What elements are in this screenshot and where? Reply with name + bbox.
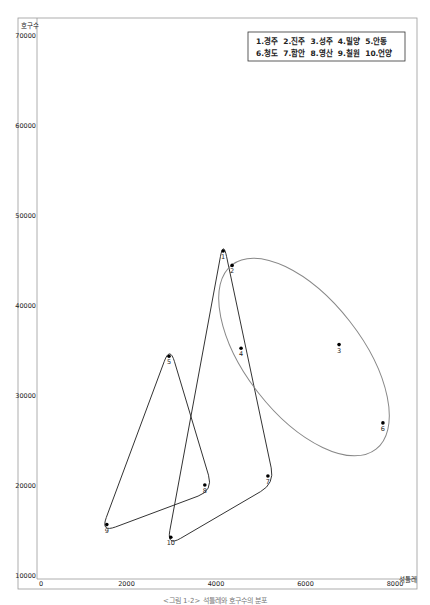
y-tick-label: 10000 bbox=[15, 572, 36, 580]
data-point-label: 1 bbox=[221, 253, 225, 261]
group-triangle-small bbox=[105, 354, 210, 529]
figure-caption: <그림 1-2> 석틀레와 호구수의 분포 bbox=[0, 595, 430, 605]
data-point-label: 5 bbox=[167, 358, 171, 366]
x-tick-label: 2000 bbox=[118, 580, 135, 588]
data-point-label: 2 bbox=[230, 267, 234, 275]
group-outlines bbox=[105, 229, 422, 541]
y-tick-label: 50000 bbox=[15, 212, 36, 220]
legend-row-2: 6.청도 7.함안 8.영산 9.칠원 10.언양 bbox=[256, 48, 392, 58]
x-tick-label: 6000 bbox=[297, 580, 314, 588]
data-point-label: 10 bbox=[167, 539, 175, 547]
data-point-label: 7 bbox=[266, 478, 270, 486]
data-point-label: 8 bbox=[203, 487, 207, 495]
x-axis-ticks: 02000400060008000 bbox=[39, 580, 403, 588]
legend: 1.경주 2.진주 3.성주 4.밀양 5.안동 6.청도 7.함안 8.영산 … bbox=[248, 32, 405, 61]
y-tick-label: 30000 bbox=[15, 392, 36, 400]
x-axis-title: 석틀레 bbox=[399, 575, 417, 584]
data-point-label: 4 bbox=[239, 350, 243, 358]
y-tick-label: 20000 bbox=[15, 482, 36, 490]
chart-frame bbox=[18, 18, 417, 589]
data-points: 12345678910 bbox=[105, 249, 385, 547]
y-tick-label: 70000 bbox=[15, 32, 36, 40]
y-axis-title: 호구수 bbox=[21, 22, 39, 30]
x-tick-label: 4000 bbox=[208, 580, 225, 588]
data-point-label: 3 bbox=[337, 347, 341, 355]
group-ellipse bbox=[186, 229, 421, 485]
legend-row-1: 1.경주 2.진주 3.성주 4.밀양 5.안동 bbox=[256, 36, 387, 46]
y-tick-label: 60000 bbox=[15, 122, 36, 130]
y-axis-ticks: 10000200003000040000500006000070000 bbox=[15, 32, 36, 580]
x-tick-label: 0 bbox=[39, 580, 43, 588]
data-point-label: 9 bbox=[105, 527, 109, 535]
data-point-label: 6 bbox=[381, 425, 385, 433]
y-tick-label: 40000 bbox=[15, 302, 36, 310]
